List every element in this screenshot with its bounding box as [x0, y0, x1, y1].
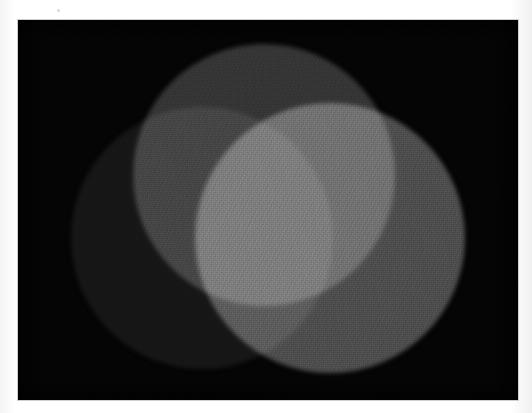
- scanned-page: Additive color mixing of three overlappi…: [0, 0, 532, 413]
- photograph-panel: [18, 20, 518, 400]
- light-circle-right: [195, 103, 465, 373]
- light-circles-group: [18, 20, 518, 400]
- paper-speck: [57, 9, 60, 12]
